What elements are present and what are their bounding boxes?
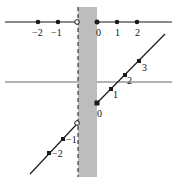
slant-label-2: 2 xyxy=(127,75,132,86)
top-open-point xyxy=(75,20,80,25)
slant-point-0 xyxy=(95,101,100,106)
top-label-0: 0 xyxy=(96,27,101,38)
slant-point-minus2 xyxy=(47,151,51,155)
slant-label-3: 3 xyxy=(142,62,147,73)
slanted-line-upper xyxy=(97,34,165,103)
slant-point-3 xyxy=(137,59,141,63)
slant-label-minus2: −2 xyxy=(52,148,63,159)
slant-label-0: 0 xyxy=(97,108,102,119)
slant-label-minus1: −1 xyxy=(66,134,77,145)
discontinuity-diagram: −2 −1 0 1 2 0 1 2 3 −1 −2 xyxy=(0,0,178,185)
top-point-2 xyxy=(135,20,140,25)
top-label-minus1: −1 xyxy=(51,27,62,38)
top-label-2: 2 xyxy=(135,27,140,38)
slant-label-1: 1 xyxy=(113,89,118,100)
top-point-1 xyxy=(115,20,120,25)
slant-open-point xyxy=(75,121,80,126)
top-label-minus2: −2 xyxy=(32,27,43,38)
shaded-gap-band xyxy=(78,7,97,177)
top-label-1: 1 xyxy=(115,27,120,38)
top-point-minus2 xyxy=(36,20,41,25)
slant-point-minus1 xyxy=(61,137,65,141)
top-point-0 xyxy=(95,20,100,25)
top-point-minus1 xyxy=(56,20,61,25)
